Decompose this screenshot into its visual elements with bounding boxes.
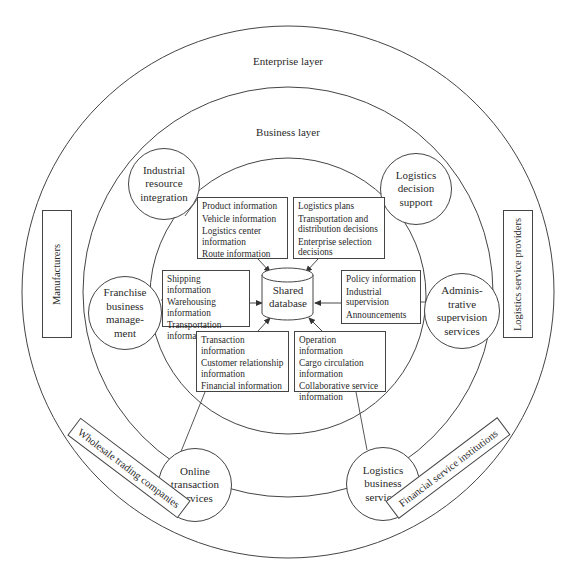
- info-item: Announcements: [346, 310, 416, 321]
- node-line: decision: [396, 182, 436, 196]
- info-item: Policy information: [346, 274, 416, 285]
- node-line: integration: [140, 191, 188, 205]
- node-line: transaction: [171, 478, 219, 492]
- node-logistics-decision-support: Logistics decision support: [380, 153, 452, 225]
- entity-label: Manufacturers: [52, 243, 63, 304]
- node-line: services: [437, 325, 488, 339]
- business-layer-label: Business layer: [238, 126, 338, 138]
- info-item: Logistics center information: [202, 226, 272, 247]
- info-item: Warehousing information: [167, 297, 225, 318]
- database-line-1: Shared: [258, 284, 318, 297]
- database-line-2: database: [258, 297, 318, 310]
- info-item: Collaborative service information: [299, 381, 383, 402]
- node-line: Industrial: [140, 164, 188, 178]
- info-item: Enterprise selection decisions: [298, 237, 380, 258]
- info-item: Cargo circulation information: [299, 358, 375, 379]
- node-line: Online: [171, 465, 219, 479]
- info-item: Industrial supervision: [346, 287, 396, 308]
- node-industrial-resource-integration: Industrial resource integration: [128, 148, 200, 220]
- infobox-bottom-left: Transaction information Customer relatio…: [196, 331, 289, 392]
- node-line: business: [104, 300, 147, 314]
- node-line: resource: [140, 177, 188, 191]
- node-administrative-supervision-services: Adminis- trative supervision services: [424, 273, 500, 349]
- info-item: Financial information: [201, 381, 284, 392]
- connector-online: [180, 392, 205, 454]
- node-line: Logistics: [396, 169, 436, 183]
- node-line: supervision: [437, 311, 488, 325]
- entity-logistics-service-providers: Logistics service providers: [503, 210, 533, 338]
- entity-manufacturers: Manufacturers: [42, 210, 72, 338]
- node-franchise-business-management: Franchise business manage- ment: [88, 276, 162, 350]
- shared-database-label: Shared database: [258, 284, 318, 310]
- info-item: Transportation and distribution decision…: [298, 214, 380, 235]
- node-line: Adminis-: [437, 284, 488, 298]
- arrow-bottom-right: [309, 318, 322, 331]
- info-item: Logistics plans: [298, 201, 380, 212]
- infobox-top-right: Logistics plans Transportation and distr…: [293, 197, 385, 259]
- enterprise-layer-label: Enterprise layer: [238, 55, 338, 67]
- info-item: Customer relationship information: [201, 358, 285, 379]
- node-line: trative: [437, 298, 488, 312]
- node-line: business: [363, 477, 403, 491]
- info-item: Shipping information: [167, 274, 245, 295]
- info-item: Route information: [202, 249, 283, 260]
- info-item: Vehicle information: [202, 214, 283, 225]
- info-item: Operation information: [299, 335, 381, 356]
- node-line: Franchise: [104, 286, 147, 300]
- infobox-bottom-right: Operation information Cargo circulation …: [294, 331, 386, 392]
- info-item: Transaction information: [201, 335, 284, 356]
- infobox-right: Policy information Industrial supervisio…: [341, 270, 421, 324]
- info-item: Product information: [202, 201, 283, 212]
- node-line: Logistics: [363, 464, 403, 478]
- node-line: support: [396, 196, 436, 210]
- arrow-top-right: [306, 259, 318, 272]
- infobox-top-left: Product information Vehicle information …: [197, 197, 288, 259]
- arrow-bottom-left: [258, 318, 270, 331]
- node-line: ment: [104, 327, 147, 341]
- node-line: manage-: [104, 313, 147, 327]
- entity-label: Logistics service providers: [513, 217, 524, 330]
- infobox-left: Shipping information Warehousing informa…: [162, 270, 250, 327]
